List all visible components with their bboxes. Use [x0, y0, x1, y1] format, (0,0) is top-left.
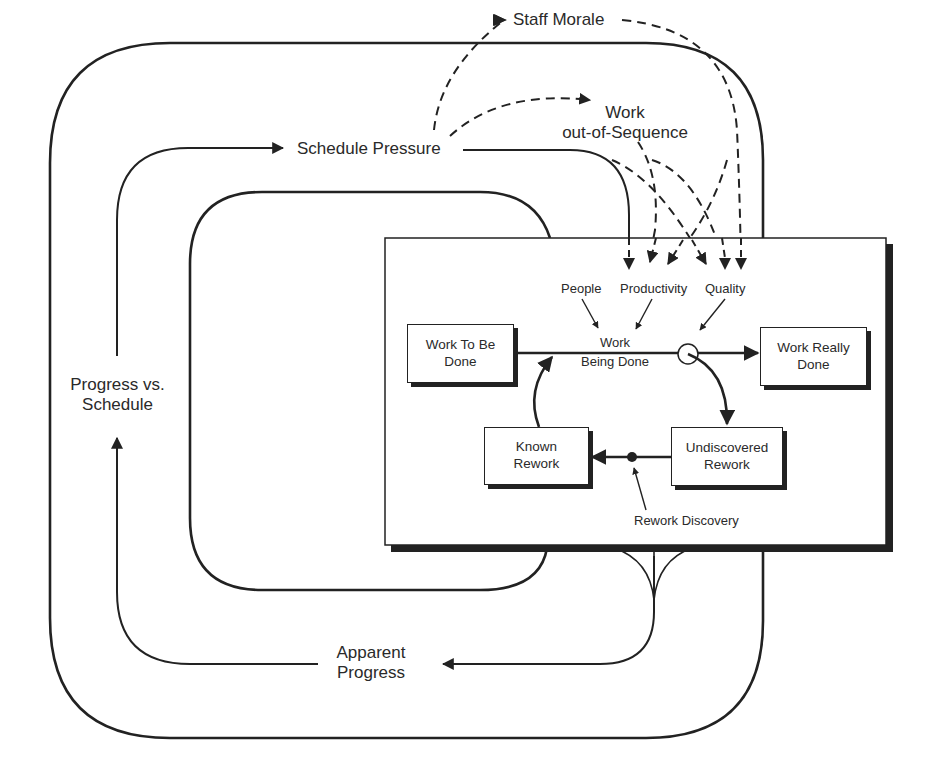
apparent-to-progress-link	[117, 438, 318, 664]
stock-known-rework: KnownRework	[484, 427, 589, 485]
apparent-progress-line1: Apparent	[337, 643, 406, 662]
stock-label-line1: Undiscovered	[686, 440, 769, 457]
stock-label-line2: Rework	[514, 456, 560, 473]
convergence-right	[654, 548, 692, 600]
people-label: People	[561, 282, 601, 297]
productivity-label: Productivity	[620, 282, 687, 297]
rework-discovery-label: Rework Discovery	[634, 514, 739, 529]
progress-vs-schedule-line1: Progress vs.	[70, 375, 164, 394]
rework-discovery-valve	[627, 452, 637, 462]
staff-morale-label: Staff Morale	[513, 10, 604, 30]
work-being-done-line1: Work	[600, 335, 630, 350]
work-out-of-sequence-line1: Work	[605, 103, 644, 122]
apparent-progress-line2: Progress	[337, 663, 405, 682]
stock-label-line2: Done	[426, 354, 495, 371]
pressure-to-morale-link	[434, 20, 505, 130]
stock-label-line1: Known	[514, 439, 560, 456]
progress-to-pressure-link	[117, 148, 283, 356]
stock-label-line2: Done	[777, 357, 850, 374]
stock-label-line1: Work To Be	[426, 337, 495, 354]
progress-vs-schedule-label: Progress vs. Schedule	[60, 375, 175, 414]
stock-undiscovered-rework: UndiscoveredRework	[671, 427, 783, 486]
quality-label: Quality	[705, 282, 745, 297]
work-being-done-label: Work Being Done	[565, 334, 665, 372]
stock-work-really-done: Work ReallyDone	[760, 327, 867, 386]
schedule-pressure-label: Schedule Pressure	[297, 139, 441, 159]
apparent-progress-arrow	[443, 556, 654, 664]
stock-label-line1: Work Really	[777, 340, 850, 357]
morale-to-quality-link	[622, 20, 741, 266]
work-out-of-sequence-line2: out-of-Sequence	[562, 123, 688, 142]
progress-vs-schedule-line2: Schedule	[82, 395, 153, 414]
convergence-left	[614, 548, 654, 600]
apparent-progress-label: Apparent Progress	[326, 643, 416, 682]
work-being-done-line2: Being Done	[581, 354, 649, 369]
stock-work-to-be-done: Work To BeDone	[407, 324, 514, 383]
stock-label-line2: Rework	[686, 457, 769, 474]
work-out-of-sequence-label: Work out-of-Sequence	[555, 103, 695, 142]
